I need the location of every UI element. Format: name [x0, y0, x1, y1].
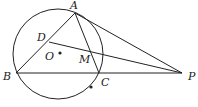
label-o: O	[45, 50, 54, 63]
center-dot-o	[58, 51, 61, 54]
label-m: M	[78, 53, 91, 66]
segment-dp	[49, 42, 182, 73]
label-b: B	[2, 70, 11, 83]
segment-ap	[75, 13, 182, 73]
label-p: P	[187, 70, 196, 83]
label-d: D	[36, 31, 46, 44]
label-a: A	[69, 0, 78, 12]
label-c: C	[101, 76, 110, 89]
geometry-diagram: A B C D O M P	[0, 0, 198, 107]
point-dot-on-circle	[89, 85, 92, 88]
